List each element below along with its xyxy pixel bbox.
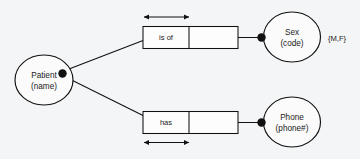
entity-sex-refmode: (code) (280, 39, 303, 48)
connector-patient-to-is-of (63, 41, 144, 72)
entity-sex-name: Sex (285, 28, 299, 37)
fact-type-is-of[interactable]: is of (143, 17, 238, 49)
orm-diagram: Patient (name) Sex (code) Phone (phone#)… (0, 0, 360, 159)
mandatory-role-dot-patient (58, 69, 66, 77)
fact-type-has-role-label: has (160, 118, 172, 127)
fact-type-is-of-box (143, 27, 238, 49)
fact-type-has-box (143, 112, 238, 134)
entity-patient[interactable]: Patient (name) (15, 55, 73, 105)
entity-phone-name: Phone (280, 113, 304, 122)
entity-patient-name: Patient (31, 71, 57, 80)
connector-patient-to-has (63, 76, 144, 116)
entity-sex[interactable]: Sex (code) (264, 12, 321, 62)
value-constraint-sex: {M,F} (328, 34, 347, 43)
mandatory-role-dot-phone (257, 118, 265, 126)
fact-type-has[interactable]: has (143, 112, 238, 143)
entity-phone-ellipse (264, 97, 321, 147)
entity-phone-refmode: (phone#) (276, 124, 309, 133)
mandatory-role-dot-sex (257, 33, 265, 41)
entity-sex-ellipse (264, 12, 321, 62)
entity-patient-refmode: (name) (31, 82, 57, 91)
entity-phone[interactable]: Phone (phone#) (264, 97, 321, 147)
orm-canvas: Patient (name) Sex (code) Phone (phone#)… (0, 0, 360, 159)
entity-patient-ellipse (15, 55, 73, 105)
fact-type-is-of-role-label: is of (159, 33, 174, 42)
